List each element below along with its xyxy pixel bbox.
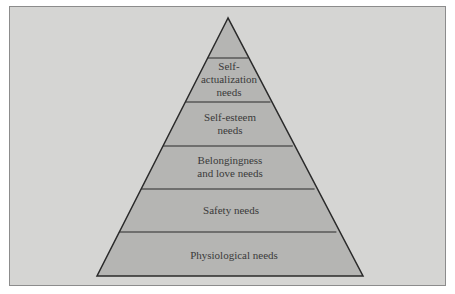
pyramid-shape	[97, 18, 363, 276]
label-line: actualization	[201, 73, 257, 86]
level-physiological: Physiological needs	[190, 249, 278, 262]
level-safety: Safety needs	[203, 204, 259, 217]
label-line: needs	[204, 124, 256, 137]
label-line: and love needs	[197, 167, 262, 180]
level-self-actualization: Self- actualization needs	[201, 60, 257, 99]
label-line: Self-	[201, 60, 257, 73]
label-line: Belongingness	[197, 154, 262, 167]
label-line: Self-esteem	[204, 111, 256, 124]
level-self-esteem: Self-esteem needs	[204, 111, 256, 137]
label-line: Physiological needs	[190, 249, 278, 262]
level-belongingness: Belongingness and love needs	[197, 154, 262, 180]
label-line: needs	[201, 86, 257, 99]
label-line: Safety needs	[203, 204, 259, 217]
